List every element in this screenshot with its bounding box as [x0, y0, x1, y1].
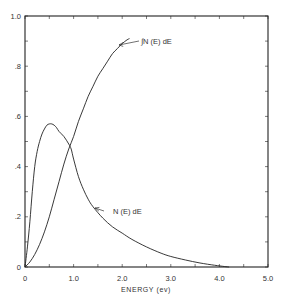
x-tick-label: 1.0	[68, 274, 78, 283]
y-tick-label: .6	[15, 112, 21, 121]
plot-frame	[25, 16, 268, 267]
density-annotation: N (E) dE	[95, 207, 142, 216]
x-tick-label: 3.0	[166, 274, 176, 283]
integral-curve	[25, 39, 129, 267]
x-axis-title: ENERGY (ev)	[121, 286, 171, 294]
y-tick-label: 1.0	[11, 12, 21, 21]
density-label: N (E) dE	[113, 207, 142, 216]
y-tick-label: 0	[17, 263, 21, 272]
y-tick-label: .4	[15, 162, 21, 171]
y-tick-label: .2	[15, 212, 21, 221]
curves	[25, 39, 229, 267]
integral-label: ∫N (E) dE	[140, 37, 172, 46]
energy-distribution-chart: 01.02.03.04.05.00.2.4.6.81.0 ∫N (E) dE N…	[0, 0, 284, 298]
x-tick-label: 5.0	[263, 274, 273, 283]
integral-annotation: ∫N (E) dE	[119, 37, 172, 46]
axis-ticks	[25, 16, 268, 267]
y-tick-label: .8	[15, 62, 21, 71]
x-tick-label: 4.0	[214, 274, 224, 283]
axis-tick-labels: 01.02.03.04.05.00.2.4.6.81.0	[11, 12, 274, 283]
x-tick-label: 0	[23, 274, 27, 283]
x-tick-label: 2.0	[117, 274, 127, 283]
